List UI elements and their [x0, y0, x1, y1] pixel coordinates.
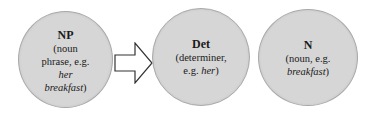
np-example-word: breakfast	[44, 82, 83, 93]
n-example-word: breakfast	[287, 66, 326, 77]
np-desc-line: (noun	[42, 42, 90, 55]
np-example-word: her	[58, 69, 72, 80]
det-node: Det (determiner, e.g. her)	[152, 8, 250, 106]
right-block-arrow-icon	[114, 42, 154, 84]
det-title: Det	[192, 37, 210, 51]
paren: )	[215, 65, 219, 76]
n-desc-line: (noun, e.g.	[286, 52, 331, 65]
paren: )	[326, 66, 330, 77]
det-desc-line: (determiner,	[175, 51, 226, 64]
np-node: NP (noun phrase, e.g. her breakfast)	[18, 11, 113, 108]
np-description: (noun phrase, e.g. her breakfast)	[42, 42, 90, 94]
paren: )	[83, 82, 87, 93]
np-title: NP	[58, 28, 74, 42]
n-node: N (noun, e.g. breakfast)	[258, 9, 358, 106]
det-example-word: her	[201, 65, 215, 76]
n-title: N	[304, 38, 313, 52]
n-description: (noun, e.g. breakfast)	[286, 52, 331, 78]
np-desc-line: phrase, e.g.	[42, 55, 90, 68]
det-desc-prefix: e.g.	[183, 65, 201, 76]
det-description: (determiner, e.g. her)	[175, 51, 226, 77]
